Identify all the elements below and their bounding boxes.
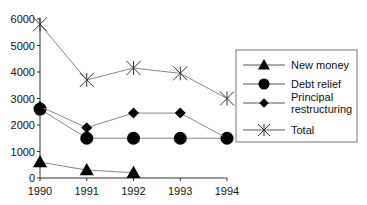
data-point-total: [33, 17, 47, 31]
data-point-total: [173, 66, 187, 80]
legend: New moneyDebt reliefPrincipalrestructuri…: [236, 50, 357, 142]
legend-marker-debt-relief: [258, 78, 269, 89]
x-tick-label: 1990: [28, 185, 52, 197]
legend-label-line: Debt relief: [291, 78, 342, 90]
data-point-principal-restructuring: [175, 108, 186, 119]
data-point-principal-restructuring: [128, 108, 139, 119]
y-tick-label: 2000: [11, 119, 35, 131]
data-point-principal-restructuring: [81, 122, 92, 133]
series-new-money: [33, 155, 141, 178]
legend-label: Total: [291, 124, 314, 136]
y-tick-label: 6000: [11, 13, 35, 25]
legend-label-line: Total: [291, 124, 314, 136]
line-chart: 0100020003000400050006000199019911992199…: [0, 0, 367, 205]
y-tick-label: 3000: [11, 93, 35, 105]
x-tick-label: 1994: [215, 185, 239, 197]
legend-label-line: New money: [291, 59, 350, 71]
data-point-total: [220, 92, 234, 106]
y-tick-label: 4000: [11, 66, 35, 78]
x-tick-label: 1992: [121, 185, 145, 197]
legend-label: New money: [291, 59, 350, 71]
x-tick-label: 1991: [75, 185, 99, 197]
data-point-debt-relief: [80, 132, 93, 145]
y-tick-label: 0: [29, 172, 35, 184]
legend-label: Debt relief: [291, 78, 342, 90]
data-point-total: [80, 73, 94, 87]
data-point-new-money: [33, 155, 47, 167]
series-total: [33, 17, 234, 105]
y-tick-label: 5000: [11, 40, 35, 52]
legend-label-line: Principal: [291, 91, 333, 103]
x-tick-label: 1993: [168, 185, 192, 197]
data-point-debt-relief: [127, 132, 140, 145]
data-point-total: [127, 61, 141, 75]
data-point-new-money: [127, 166, 141, 178]
series-layer: [33, 17, 234, 178]
y-tick-label: 1000: [11, 146, 35, 158]
legend-label-line: restructuring: [291, 103, 352, 115]
data-point-debt-relief: [174, 132, 187, 145]
